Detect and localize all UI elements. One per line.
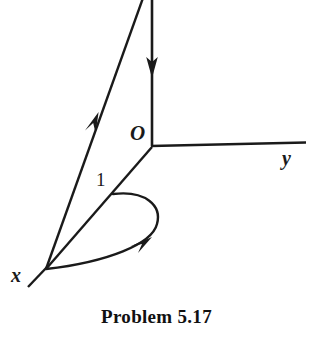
figure-container: O y x 1 Problem 5.17 [0, 0, 313, 337]
diagonal-path [46, 0, 143, 269]
segment-one-label: 1 [96, 170, 106, 189]
loop-curve-arrowhead [131, 237, 152, 253]
origin-label: O [130, 123, 145, 144]
origin-to-x-segment [46, 147, 152, 269]
diagram-canvas [0, 0, 313, 337]
y-axis [151, 143, 306, 147]
y-axis-label: y [282, 148, 291, 168]
figure-caption: Problem 5.17 [0, 306, 313, 328]
vertical-axis [146, 0, 158, 146]
x-axis-label: x [11, 265, 21, 285]
